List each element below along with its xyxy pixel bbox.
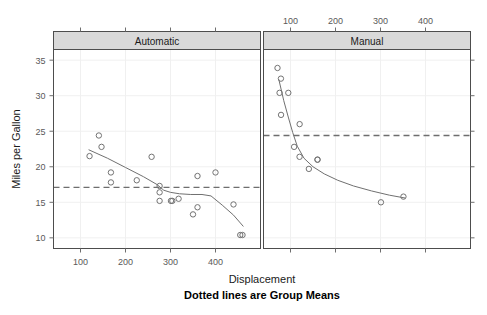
panel-manual: Manual100200300400 bbox=[264, 16, 471, 249]
loess-smooth-line bbox=[279, 79, 405, 198]
data-point bbox=[278, 112, 283, 117]
chart-subtitle: Dotted lines are Group Means bbox=[184, 289, 340, 301]
y-tick-label: 35 bbox=[35, 56, 45, 66]
x-tick-label: 100 bbox=[283, 16, 298, 26]
loess-smooth-line bbox=[89, 150, 244, 227]
data-point bbox=[96, 133, 101, 138]
x-axis-title: Displacement bbox=[229, 273, 296, 285]
y-tick-label: 25 bbox=[35, 127, 45, 137]
data-point bbox=[157, 190, 162, 195]
data-point bbox=[108, 180, 113, 185]
data-point bbox=[190, 212, 195, 217]
data-point bbox=[297, 154, 302, 159]
data-point bbox=[176, 196, 181, 201]
x-tick-label: 300 bbox=[373, 16, 388, 26]
y-tick-label: 30 bbox=[35, 91, 45, 101]
x-tick-label: 300 bbox=[163, 257, 178, 267]
data-point bbox=[99, 144, 104, 149]
chart-svg: Automatic100200300400Manual1002003004001… bbox=[0, 0, 487, 315]
data-point bbox=[291, 144, 296, 149]
y-tick-label: 10 bbox=[35, 233, 45, 243]
panel-automatic: Automatic100200300400 bbox=[54, 32, 261, 267]
y-tick-label: 15 bbox=[35, 198, 45, 208]
data-point bbox=[401, 194, 406, 199]
y-axis-title: Miles per Gallon bbox=[10, 109, 22, 188]
data-point bbox=[134, 178, 139, 183]
data-point bbox=[87, 153, 92, 158]
data-point bbox=[297, 121, 302, 126]
y-tick-label: 20 bbox=[35, 162, 45, 172]
chart-figure: Automatic100200300400Manual1002003004001… bbox=[0, 0, 487, 315]
panel-border bbox=[264, 50, 471, 249]
panel-border bbox=[54, 50, 261, 249]
data-point bbox=[275, 65, 280, 70]
data-point bbox=[278, 76, 283, 81]
x-tick-label: 400 bbox=[418, 16, 433, 26]
data-point bbox=[195, 205, 200, 210]
strip-label-manual: Manual bbox=[351, 36, 384, 47]
data-point bbox=[108, 170, 113, 175]
x-tick-label: 200 bbox=[118, 257, 133, 267]
x-tick-label: 100 bbox=[73, 257, 88, 267]
data-point bbox=[157, 183, 162, 188]
strip-label-automatic: Automatic bbox=[135, 36, 179, 47]
x-tick-label: 400 bbox=[208, 257, 223, 267]
data-point bbox=[149, 154, 154, 159]
data-point bbox=[195, 173, 200, 178]
x-tick-label: 200 bbox=[328, 16, 343, 26]
data-point bbox=[315, 157, 320, 162]
